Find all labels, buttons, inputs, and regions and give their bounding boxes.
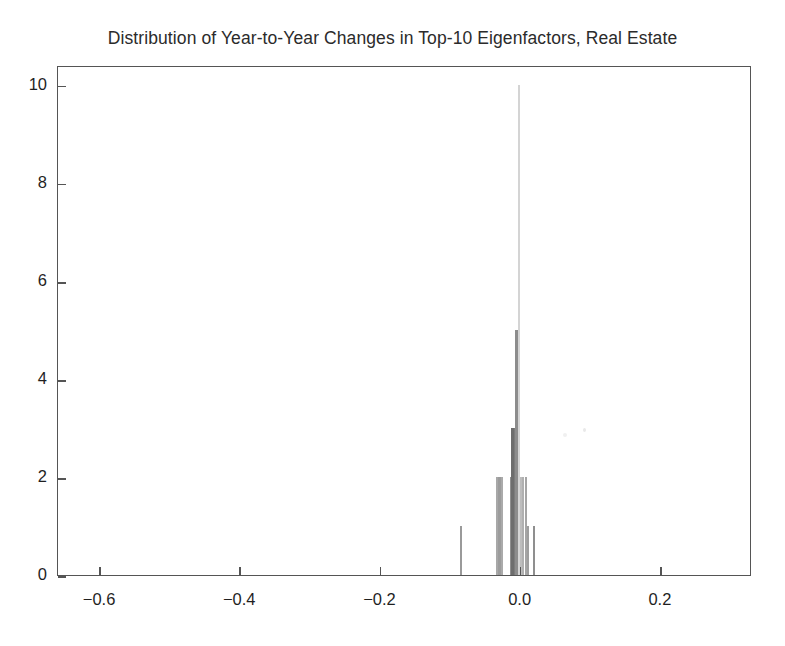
y-axis-tick-label: 10 <box>5 75 47 94</box>
x-axis-tick <box>520 567 522 575</box>
y-axis-tick-label: 6 <box>5 271 47 290</box>
chart-title: Distribution of Year-to-Year Changes in … <box>0 28 785 49</box>
y-axis-tick <box>58 576 66 578</box>
y-axis-tick <box>58 184 66 186</box>
x-axis-tick-label: −0.6 <box>59 590 139 609</box>
plot-frame <box>57 66 751 576</box>
y-axis-tick <box>58 282 66 284</box>
x-axis-tick-label: 0.2 <box>620 590 700 609</box>
plot-area <box>58 67 750 575</box>
y-axis-tick <box>58 86 66 88</box>
histogram-bar <box>460 526 462 575</box>
x-axis-tick-label: −0.2 <box>339 590 419 609</box>
scan-artifact-speck <box>563 433 567 437</box>
histogram-bar <box>533 526 535 575</box>
x-axis-tick-label: −0.4 <box>199 590 279 609</box>
histogram-figure: Distribution of Year-to-Year Changes in … <box>0 0 785 646</box>
y-axis-tick-label: 8 <box>5 173 47 192</box>
x-axis-tick <box>660 567 662 575</box>
y-axis-tick <box>58 380 66 382</box>
x-axis-tick <box>239 567 241 575</box>
y-axis-tick <box>58 478 66 480</box>
y-axis-tick-label: 2 <box>5 467 47 486</box>
scan-artifact-speck <box>583 428 586 432</box>
histogram-bar <box>501 477 503 575</box>
y-axis-tick-label: 0 <box>5 565 47 584</box>
y-axis-tick-label: 4 <box>5 369 47 388</box>
histogram-bar <box>527 526 529 575</box>
x-axis-tick <box>99 567 101 575</box>
histogram-bar <box>522 477 524 575</box>
x-axis-tick <box>380 567 382 575</box>
x-axis-tick-label: 0.0 <box>480 590 560 609</box>
